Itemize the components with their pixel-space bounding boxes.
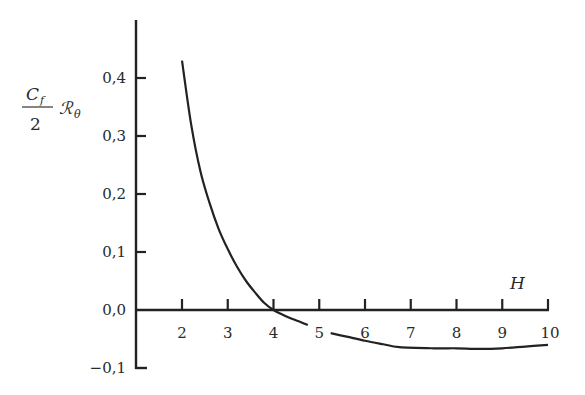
y-tick-label: 0,2: [102, 185, 126, 203]
chart: −0,10,00,10,20,30,4 2345678910 H C f 2 ℛ…: [0, 0, 585, 395]
svg-text:θ: θ: [74, 108, 81, 121]
svg-text:C: C: [26, 84, 39, 104]
y-tick-label: 0,1: [102, 243, 126, 261]
x-ticks: 2345678910: [177, 299, 559, 342]
y-ticks: −0,10,00,10,20,30,4: [90, 69, 147, 377]
y-tick-label: 0,0: [102, 301, 126, 319]
curve-segment: [182, 61, 308, 325]
y-tick-label: 0,4: [102, 69, 126, 87]
x-tick-label: 2: [177, 324, 187, 342]
y-axis-title: C f 2 ℛ θ: [22, 84, 81, 134]
svg-text:2: 2: [30, 114, 41, 134]
y-tick-label: −0,1: [90, 359, 126, 377]
x-tick-label: 8: [452, 324, 462, 342]
x-tick-label: 4: [269, 324, 279, 342]
x-tick-label: 9: [497, 324, 507, 342]
x-axis-title: H: [509, 273, 526, 293]
x-tick-label: 10: [540, 324, 559, 342]
x-tick-label: 7: [406, 324, 416, 342]
svg-text:f: f: [39, 94, 46, 107]
y-tick-label: 0,3: [102, 127, 126, 145]
x-tick-label: 5: [314, 324, 324, 342]
x-tick-label: 3: [223, 324, 233, 342]
svg-text:ℛ: ℛ: [59, 98, 74, 118]
